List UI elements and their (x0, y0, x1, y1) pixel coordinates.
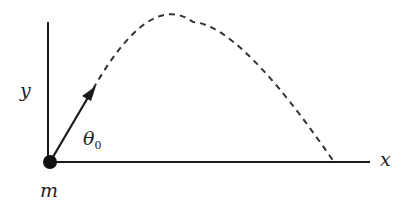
mass-label: m (40, 181, 58, 200)
mass-point (43, 155, 57, 169)
projectile-diagram (0, 0, 419, 205)
velocity-arrowhead-icon (82, 86, 96, 101)
angle-label: θ0 (83, 129, 101, 151)
x-axis-label: x (380, 150, 391, 169)
y-axis-label: y (20, 81, 31, 100)
trajectory-path (93, 14, 334, 162)
angle-subscript: 0 (94, 139, 101, 152)
angle-symbol: θ (83, 127, 94, 149)
